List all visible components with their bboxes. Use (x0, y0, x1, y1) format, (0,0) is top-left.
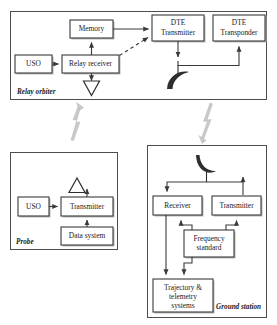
node-trajectory-telemetry-label-line3: systems (171, 301, 195, 310)
node-frequency-standard-label-line1: Frequency (193, 234, 224, 243)
node-dte-transmitter-label-line2: Transmitter (161, 28, 196, 37)
node-probe-uso-label: USO (26, 202, 41, 211)
node-relay-uso[interactable]: USO (15, 55, 54, 75)
node-probe-uso[interactable]: USO (18, 197, 51, 218)
diagram-svg: USO Relay receiver Memory DTE Transmitte… (0, 0, 277, 325)
node-frequency-standard-label-line2: standard (196, 243, 221, 252)
lightning-bolt-down-icon (202, 103, 213, 139)
node-gs-transmitter-label: Transmitter (219, 201, 254, 210)
panel-relay-orbiter: USO Relay receiver Memory DTE Transmitte… (11, 12, 267, 100)
node-frequency-standard[interactable]: Frequency standard (184, 230, 236, 259)
node-dte-transponder[interactable]: DTE Transponder (213, 15, 267, 43)
node-dte-transmitter[interactable]: DTE Transmitter (152, 15, 206, 43)
panel-ground-station: Receiver Transmitter Frequency standard … (148, 146, 267, 318)
rf-link-relay-orbiter-to-ground-station (199, 103, 213, 144)
node-trajectory-telemetry-label-line2: telemetry (169, 292, 197, 301)
node-dte-transmitter-label-line1: DTE (171, 18, 186, 27)
node-memory-label: Memory (79, 24, 105, 33)
node-probe-transmitter[interactable]: Transmitter (61, 197, 115, 218)
panel-relay-orbiter-label: Relay orbiter (16, 88, 56, 96)
panel-probe-label: Probe (16, 238, 34, 246)
panel-probe: USO Transmitter Data system Probe (11, 153, 118, 250)
node-gs-transmitter[interactable]: Transmitter (212, 196, 263, 217)
node-gs-receiver[interactable]: Receiver (153, 196, 204, 217)
node-relay-uso-label: USO (26, 59, 41, 68)
node-dte-transponder-label-line1: DTE (232, 18, 247, 27)
node-relay-receiver-label: Relay receiver (69, 59, 112, 68)
rf-link-probe-to-relay-orbiter (71, 103, 84, 141)
node-memory[interactable]: Memory (70, 20, 115, 40)
node-probe-transmitter-label: Transmitter (70, 202, 105, 211)
node-trajectory-telemetry-label-line1: Trajectory & (164, 283, 202, 292)
node-dte-transponder-label-line2: Transponder (220, 28, 258, 37)
node-trajectory-telemetry[interactable]: Trajectory & telemetry systems (153, 279, 215, 314)
node-data-system-label: Data system (69, 231, 106, 240)
node-relay-receiver[interactable]: Relay receiver (62, 55, 121, 75)
node-gs-receiver-label: Receiver (164, 201, 191, 210)
node-data-system[interactable]: Data system (61, 227, 115, 247)
diagram-canvas: USO Relay receiver Memory DTE Transmitte… (0, 0, 277, 325)
panel-ground-station-label: Ground station (216, 303, 261, 311)
